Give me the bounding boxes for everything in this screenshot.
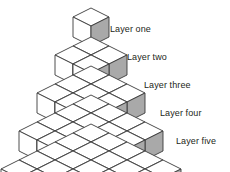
cube-pyramid-figure: Layer oneLayer twoLayer threeLayer fourL…: [0, 0, 230, 172]
label-layer-five: Layer five: [176, 136, 216, 146]
label-layer-one: Layer one: [110, 24, 151, 34]
label-layer-two: Layer two: [127, 52, 167, 62]
label-layer-four: Layer four: [160, 108, 202, 118]
label-layer-three: Layer three: [144, 80, 191, 90]
